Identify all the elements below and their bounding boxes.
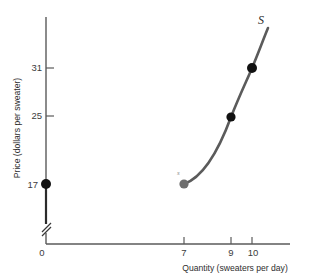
y-axis-title: Price (dollars per sweater)	[12, 78, 22, 178]
x-tick-label-7: 7	[181, 247, 186, 258]
origin-label: 0	[39, 247, 44, 258]
data-point-7-17	[179, 179, 188, 188]
x-tick-label-10: 10	[248, 247, 259, 258]
lower-point-label: s	[177, 169, 180, 177]
y-tick-label-17: 17	[27, 179, 38, 190]
data-point-axis-17	[41, 179, 51, 189]
chart-canvas: 31 25 17 0 7 9 10 S s Price (dollars per…	[0, 0, 311, 279]
y-tick-label-25: 25	[31, 110, 42, 121]
x-tick-label-9: 9	[228, 247, 233, 258]
x-axis-title: Quantity (sweaters per day)	[182, 263, 288, 273]
data-point-10-31	[247, 63, 257, 73]
supply-curve-chart: 31 25 17 0 7 9 10 S s Price (dollars per…	[0, 0, 311, 279]
supply-curve-label: S	[258, 13, 264, 27]
data-point-9-25	[226, 112, 235, 121]
y-tick-label-31: 31	[31, 62, 42, 73]
